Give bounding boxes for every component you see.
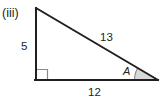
angle-label-a: A bbox=[123, 66, 130, 77]
side-hypotenuse bbox=[36, 8, 158, 80]
side-label-vertical: 5 bbox=[21, 41, 27, 53]
geometry-figure: (iii) 5 13 12 A bbox=[0, 0, 162, 105]
triangle-diagram-svg bbox=[0, 0, 162, 105]
side-label-hypotenuse: 13 bbox=[100, 32, 113, 44]
part-label: (iii) bbox=[2, 7, 19, 20]
side-label-base: 12 bbox=[88, 87, 101, 99]
right-angle-marker bbox=[37, 70, 48, 80]
